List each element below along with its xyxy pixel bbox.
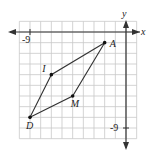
point-a-dot — [103, 41, 107, 45]
y-tick-label: -9 — [110, 122, 118, 133]
grid — [19, 21, 136, 138]
diagram-svg: x y -9 -9 AIDM — [0, 0, 152, 157]
point-m-label: M — [70, 98, 80, 109]
y-axis-label: y — [121, 8, 127, 19]
coordinate-diagram: x y -9 -9 AIDM — [0, 0, 152, 157]
y-axis-down-arrow-icon — [123, 142, 129, 150]
point-a-label: A — [109, 38, 117, 49]
point-d-label: D — [25, 120, 34, 131]
x-axis-right-arrow-icon — [132, 29, 140, 35]
quadrilateral-AIDM — [30, 43, 105, 118]
point-d-dot — [28, 116, 32, 120]
point-i-dot — [50, 73, 54, 77]
point-i-label: I — [41, 63, 46, 74]
x-tick-label: -9 — [22, 34, 30, 45]
x-axis-label: x — [140, 26, 146, 37]
x-axis-left-arrow-icon — [8, 29, 16, 35]
